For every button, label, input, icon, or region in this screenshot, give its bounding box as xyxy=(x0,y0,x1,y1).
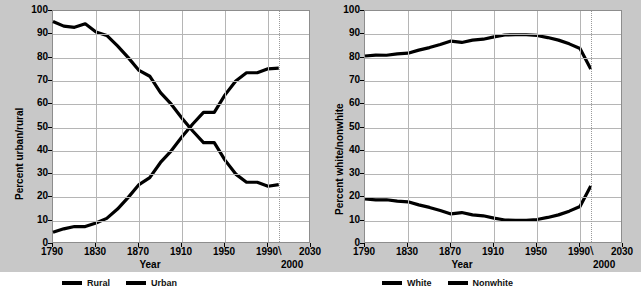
y-axis-tick-label: 80 xyxy=(336,52,360,62)
reference-line-2000 xyxy=(279,11,280,242)
x-axis-tick-label: 1790 xyxy=(36,246,68,257)
y-axis-tick-mark xyxy=(360,220,364,221)
x-axis-tick-mark xyxy=(181,243,182,247)
gridline-vertical xyxy=(494,11,495,242)
x-axis-tick-label: 1910 xyxy=(477,246,509,257)
legend-item-rural[interactable]: Rural xyxy=(62,278,110,288)
legend-swatch-white xyxy=(382,281,402,285)
y-axis-tick-mark xyxy=(360,150,364,151)
y-axis-tick-mark xyxy=(360,173,364,174)
legend-item-white[interactable]: White xyxy=(382,278,432,288)
legend-swatch-urban xyxy=(126,281,146,285)
y-axis-tick-mark xyxy=(48,150,52,151)
gridline-horizontal xyxy=(365,81,621,82)
y-axis-tick-mark xyxy=(360,80,364,81)
series-line-nonwhite xyxy=(365,186,591,220)
x-axis-tick-label: 2030 xyxy=(606,246,638,257)
y-axis-tick-mark xyxy=(48,80,52,81)
legend-item-urban[interactable]: Urban xyxy=(126,278,177,288)
x-axis-tick-mark xyxy=(310,243,311,247)
x-axis-tick-label: 1790 xyxy=(348,246,380,257)
legend-label-urban: Urban xyxy=(151,278,177,288)
gridline-vertical xyxy=(139,11,140,242)
gridline-horizontal xyxy=(53,221,309,222)
x-axis-tick-label: 1950 xyxy=(520,246,552,257)
legend-white-nonwhite: White Nonwhite xyxy=(382,278,529,288)
x-axis-tick-mark xyxy=(450,243,451,247)
gridline-horizontal xyxy=(53,151,309,152)
x-axis-tick-mark xyxy=(52,243,53,247)
gridline-horizontal xyxy=(53,174,309,175)
y-axis-tick-label: 10 xyxy=(336,215,360,225)
gridline-vertical xyxy=(96,11,97,242)
gridline-horizontal xyxy=(53,81,309,82)
y-axis-tick-mark xyxy=(360,196,364,197)
x-axis-tick-label: 1830 xyxy=(79,246,111,257)
y-axis-tick-mark xyxy=(48,196,52,197)
y-axis-tick-mark xyxy=(48,220,52,221)
gridline-horizontal xyxy=(365,58,621,59)
gridline-horizontal xyxy=(365,174,621,175)
legend-label-white: White xyxy=(407,278,432,288)
gridline-horizontal xyxy=(53,58,309,59)
legend-label-nonwhite: Nonwhite xyxy=(473,278,514,288)
x-axis-tick-mark xyxy=(622,243,623,247)
x-axis-tick-mark xyxy=(95,243,96,247)
series-line-white xyxy=(365,35,591,69)
x-axis-tick-mark xyxy=(224,243,225,247)
gridline-horizontal xyxy=(53,128,309,129)
gridline-vertical xyxy=(225,11,226,242)
y-axis-tick-label: 20 xyxy=(336,191,360,201)
x-axis-tick-mark xyxy=(407,243,408,247)
y-axis-tick-label: 70 xyxy=(24,75,48,85)
legend-strip: Rural Urban White Nonwhite xyxy=(0,272,641,295)
y-axis-tick-label: 60 xyxy=(336,98,360,108)
gridline-horizontal xyxy=(53,197,309,198)
y-axis-tick-label: 40 xyxy=(336,145,360,155)
y-axis-tick-mark xyxy=(360,33,364,34)
legend-urban-rural: Rural Urban xyxy=(62,278,193,288)
gridline-vertical xyxy=(580,11,581,242)
figure-root: Percent urban/rural Year \ 2000 01020304… xyxy=(0,0,641,295)
x-axis-tick-label: 1950 xyxy=(208,246,240,257)
axis-break-note-left: 2000 xyxy=(281,259,303,270)
legend-item-nonwhite[interactable]: Nonwhite xyxy=(448,278,514,288)
plot-area-urban-rural xyxy=(52,10,310,243)
legend-swatch-rural xyxy=(62,281,82,285)
y-axis-tick-mark xyxy=(48,127,52,128)
legend-swatch-nonwhite xyxy=(448,281,468,285)
y-axis-tick-label: 100 xyxy=(336,5,360,15)
gridline-horizontal xyxy=(365,34,621,35)
gridline-horizontal xyxy=(365,128,621,129)
gridline-horizontal xyxy=(365,151,621,152)
y-axis-tick-label: 50 xyxy=(24,122,48,132)
y-axis-tick-label: 70 xyxy=(336,75,360,85)
y-axis-tick-mark xyxy=(360,127,364,128)
x-axis-tick-mark xyxy=(138,243,139,247)
y-axis-tick-mark xyxy=(48,173,52,174)
gridline-horizontal xyxy=(53,34,309,35)
x-axis-tick-label: 1990 xyxy=(563,246,595,257)
y-axis-tick-label: 100 xyxy=(24,5,48,15)
y-axis-tick-mark xyxy=(48,33,52,34)
y-axis-tick-mark xyxy=(48,10,52,11)
gridline-vertical xyxy=(268,11,269,242)
y-axis-tick-label: 10 xyxy=(24,215,48,225)
y-axis-tick-label: 80 xyxy=(24,52,48,62)
y-axis-tick-label: 40 xyxy=(24,145,48,155)
gridline-horizontal xyxy=(365,104,621,105)
reference-line-2000 xyxy=(591,11,592,242)
gridline-vertical xyxy=(182,11,183,242)
x-axis-tick-label: 1830 xyxy=(391,246,423,257)
x-axis-tick-mark xyxy=(364,243,365,247)
y-axis-tick-mark xyxy=(360,103,364,104)
y-axis-tick-label: 30 xyxy=(24,168,48,178)
gridline-vertical xyxy=(408,11,409,242)
gridline-vertical xyxy=(537,11,538,242)
axis-break-note-right: 2000 xyxy=(593,259,615,270)
gridline-vertical xyxy=(451,11,452,242)
x-axis-tick-mark xyxy=(536,243,537,247)
plot-area-white-nonwhite xyxy=(364,10,622,243)
x-axis-tick-label: 1910 xyxy=(165,246,197,257)
gridline-horizontal xyxy=(365,197,621,198)
